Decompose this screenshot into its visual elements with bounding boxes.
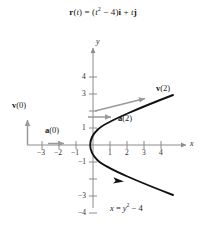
x-tick-label-neg3: −3 <box>37 148 45 157</box>
y-tick-label-4: 4 <box>82 72 86 81</box>
x-axis-label: x <box>190 139 194 148</box>
x-tick-label-neg2: −2 <box>54 148 62 157</box>
y-tick-label-1: 1 <box>82 123 86 132</box>
vector-function-figure: r(t) = (t2 − 4)i + tj <box>0 0 206 235</box>
eqn-tail: − 4 <box>130 203 143 213</box>
v2-arg: (2) <box>160 83 170 93</box>
y-tick-label-neg1: −1 <box>78 157 86 166</box>
x-tick-label-4: 4 <box>159 148 163 157</box>
curve-direction-arrow-icon <box>113 177 124 183</box>
a2-arg: (2) <box>122 113 132 123</box>
y-tick-label-neg3: −3 <box>78 191 86 200</box>
x-tick-label-2: 2 <box>125 148 129 157</box>
vector-label-v2: v(2) <box>156 83 170 93</box>
curve-equation-label: x = y2 − 4 <box>110 203 143 213</box>
eqn-equals: = <box>114 203 123 213</box>
y-axis-label: y <box>96 37 100 46</box>
x-tick-label-1: 1 <box>108 148 112 157</box>
vector-label-a2: a(2) <box>118 113 132 123</box>
y-tick-label-neg4: −4 <box>78 208 86 217</box>
vector-label-v0: v(0) <box>12 100 26 110</box>
y-tick-label-3: 3 <box>82 89 86 98</box>
vector-label-a0: a(0) <box>45 125 59 135</box>
x-tick-label-neg1: −1 <box>71 148 79 157</box>
x-tick-label-3: 3 <box>142 148 146 157</box>
plot-canvas <box>0 0 206 235</box>
a0-arg: (0) <box>49 125 59 135</box>
v0-arg: (0) <box>16 100 26 110</box>
